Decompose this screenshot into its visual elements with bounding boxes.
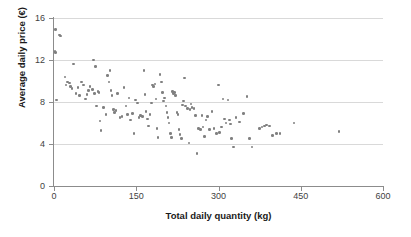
data-point (169, 132, 172, 135)
y-tick-label: 0 (25, 182, 45, 191)
data-point (203, 135, 206, 138)
data-point (230, 137, 233, 140)
data-point (126, 113, 129, 116)
data-point (125, 105, 128, 108)
data-point (144, 93, 147, 96)
data-point (134, 99, 137, 102)
data-point (206, 115, 209, 118)
data-point (232, 146, 235, 149)
data-point (168, 122, 171, 125)
data-point (147, 125, 150, 128)
data-point (167, 116, 170, 119)
data-point (163, 97, 166, 100)
data-point (86, 93, 89, 96)
data-point (229, 123, 232, 126)
data-point (227, 99, 230, 102)
data-point (109, 69, 112, 72)
data-point (188, 142, 191, 145)
plot-area (54, 18, 383, 186)
y-tick-label: 16 (25, 14, 45, 23)
data-point (78, 94, 81, 97)
y-tick-label: 4 (25, 140, 45, 149)
x-tick-label: 600 (368, 192, 398, 201)
data-point (246, 95, 249, 98)
data-point (121, 115, 124, 118)
data-point (91, 88, 94, 91)
data-point (156, 127, 159, 130)
data-point (59, 35, 62, 38)
data-point (131, 112, 134, 115)
data-point (293, 122, 296, 125)
data-point (110, 89, 113, 92)
data-point (248, 137, 251, 140)
data-point (128, 97, 131, 100)
data-point (182, 100, 185, 103)
data-point (143, 69, 146, 72)
data-point (115, 109, 118, 112)
data-point (202, 126, 205, 129)
data-point (275, 132, 278, 135)
data-point (162, 100, 165, 103)
data-point (94, 65, 97, 68)
data-point (178, 128, 181, 131)
data-point (193, 107, 196, 110)
data-point (170, 136, 173, 139)
data-point (123, 86, 126, 89)
data-point (71, 87, 74, 90)
data-point (218, 131, 221, 134)
data-point (64, 76, 67, 79)
data-point (279, 132, 282, 135)
data-point (180, 137, 183, 140)
data-point (183, 77, 186, 80)
data-point (99, 120, 102, 123)
data-point (174, 94, 177, 97)
data-point (129, 119, 132, 122)
y-tick-label: 8 (25, 98, 45, 107)
data-point (194, 114, 197, 117)
data-point (100, 129, 103, 132)
data-point (102, 106, 105, 109)
data-point (155, 98, 158, 101)
data-point (213, 127, 216, 130)
y-axis-title: Average daily price (€) (16, 0, 27, 123)
data-point (242, 112, 245, 115)
data-point (116, 92, 119, 95)
data-point (160, 81, 163, 84)
data-point (54, 28, 57, 31)
data-point (338, 130, 341, 133)
x-tick-label: 450 (286, 192, 316, 201)
data-point (223, 118, 226, 121)
data-point (205, 119, 208, 122)
data-point (108, 81, 111, 84)
data-point (222, 98, 225, 101)
x-tick-label: 300 (204, 192, 234, 201)
data-point (215, 132, 218, 135)
data-point (166, 111, 169, 114)
data-point (268, 125, 271, 128)
data-point (149, 113, 152, 116)
data-point (238, 121, 241, 124)
data-point (145, 110, 148, 113)
data-point (82, 84, 85, 87)
data-point (235, 116, 238, 119)
data-point (217, 84, 220, 87)
data-point (251, 146, 254, 149)
data-point (159, 73, 162, 76)
data-point (161, 91, 164, 94)
data-point (136, 102, 139, 105)
data-point (152, 85, 155, 88)
data-point (177, 113, 180, 116)
x-axis-title: Total daily quantity (kg) (54, 210, 383, 221)
data-point (92, 59, 95, 62)
data-point (75, 92, 78, 95)
data-point (65, 84, 68, 87)
data-point (77, 86, 80, 89)
data-point (150, 102, 153, 105)
data-point (72, 63, 75, 66)
data-point (95, 105, 98, 108)
data-point (208, 128, 211, 131)
data-point (87, 89, 90, 92)
data-point (157, 136, 160, 139)
data-point (179, 133, 182, 136)
data-point (111, 94, 114, 97)
